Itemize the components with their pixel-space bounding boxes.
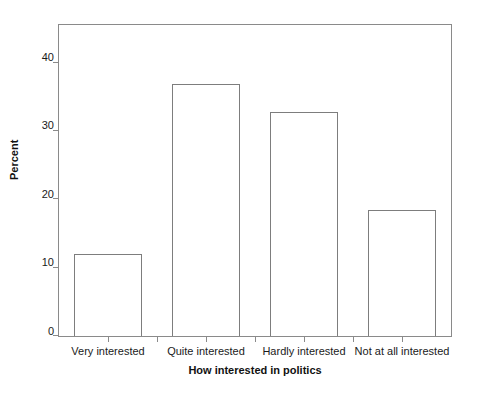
x-axis-tick [206, 336, 207, 342]
x-axis-tick-label: Very interested [71, 345, 144, 358]
bar [270, 112, 339, 336]
x-axis-tick [402, 336, 403, 342]
bar [368, 210, 437, 336]
y-axis-tick-label: 40 [42, 52, 54, 63]
y-axis-tick-label: 20 [42, 188, 54, 199]
x-axis-tick-label: Not at all interested [355, 345, 450, 358]
bar [74, 254, 143, 336]
x-axis-tick [108, 336, 109, 342]
y-axis-title: Percent [8, 140, 20, 180]
x-axis-tick [157, 336, 158, 342]
x-axis-tick [304, 336, 305, 342]
bar-chart: 010203040 Very interestedQuite intereste… [0, 0, 477, 393]
bar [172, 84, 241, 336]
y-axis-tick-label: 30 [42, 120, 54, 131]
plot-area: 010203040 Very interestedQuite intereste… [58, 24, 452, 337]
x-axis-tick [255, 336, 256, 342]
x-axis-tick [353, 336, 354, 342]
y-axis-tick-label: 10 [42, 257, 54, 268]
x-axis-title: How interested in politics [58, 364, 452, 376]
x-axis-tick-label: Hardly interested [262, 345, 345, 358]
y-axis-tick-label: 0 [48, 325, 54, 336]
bars-group [59, 25, 451, 336]
x-axis-tick-label: Quite interested [167, 345, 245, 358]
